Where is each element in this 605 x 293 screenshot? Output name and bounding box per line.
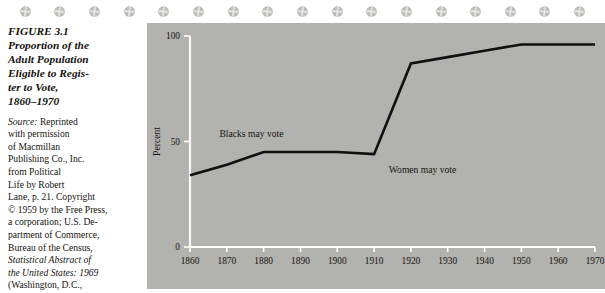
source-line: (Washington, D.C., (8, 279, 82, 290)
source-label: Source: (8, 116, 37, 127)
figure-title-line: Adult Population (8, 53, 89, 65)
source-line: Bureau of the Census, (8, 242, 93, 253)
figure-title-line: Eligible to Regis- (8, 67, 89, 79)
source-line: a corporation; U.S. De- (8, 216, 98, 227)
rosette-ornament (469, 5, 482, 18)
x-tick-label: 1860 (181, 256, 200, 266)
x-tick-label: 1940 (475, 256, 494, 266)
figure-source-note: Source: Reprintedwith permissionof Macmi… (8, 116, 142, 292)
chart-annotation-label: Women may vote (389, 164, 456, 175)
rosette-ornament (227, 5, 240, 18)
x-tick-label: 1880 (254, 256, 273, 266)
rosette-ornament (538, 5, 551, 18)
x-tick-label: 1930 (438, 256, 457, 266)
rosette-ornament (400, 5, 413, 18)
chart-axes (190, 36, 595, 247)
figure-number: FIGURE 3.1 (8, 25, 69, 37)
figure-title-line: ter to Vote, (8, 81, 58, 93)
source-line: the United States: 1969 (8, 267, 98, 278)
chart-panel: 1860187018801890190019101920193019401950… (147, 23, 605, 289)
x-tick-label: 1900 (328, 256, 347, 266)
rosette-ornament (192, 5, 205, 18)
figure-title: FIGURE 3.1Proportion of theAdult Populat… (8, 24, 142, 109)
x-tick-label: 1920 (402, 256, 421, 266)
rosette-ornament (88, 5, 101, 18)
rosette-ornament (19, 5, 32, 18)
chart-annotation-label: Blacks may vote (219, 128, 283, 139)
figure-title-line: 1860–1970 (8, 95, 59, 107)
rosette-ornament (365, 5, 378, 18)
rosette-ornament (331, 5, 344, 18)
x-tick-label: 1870 (217, 256, 236, 266)
rosette-ornament (573, 5, 586, 18)
y-tick-label: 100 (166, 31, 180, 41)
y-axis-ticks: 050100 (166, 31, 190, 252)
x-tick-label: 1910 (365, 256, 384, 266)
source-line: Reprinted (37, 116, 77, 127)
source-line: © 1959 by the Free Press, (8, 204, 107, 215)
x-axis-ticks: 1860187018801890190019101920193019401950… (181, 247, 605, 266)
rosette-ornament (53, 5, 66, 18)
source-line: of Macmillan (8, 141, 60, 152)
rosette-ornament (261, 5, 274, 18)
source-line: with permission (8, 128, 70, 139)
y-tick-label: 0 (175, 242, 180, 252)
x-tick-label: 1970 (586, 256, 605, 266)
source-line: Statistical Abstract of (8, 254, 91, 265)
source-line: Life by Robert (8, 179, 64, 190)
source-line: Publishing Co., Inc. (8, 153, 85, 164)
y-axis-title: Percent (151, 127, 162, 156)
y-tick-label: 50 (171, 137, 181, 147)
source-line: from Political (8, 166, 61, 177)
series-polyline (190, 44, 595, 175)
x-tick-label: 1960 (549, 256, 568, 266)
figure-title-line: Proportion of the (8, 39, 89, 51)
rosette-ornament (123, 5, 136, 18)
x-tick-label: 1950 (512, 256, 531, 266)
rosette-ornament (296, 5, 309, 18)
data-series-line (190, 44, 595, 175)
rosette-ornament (157, 5, 170, 18)
rosette-ornament (435, 5, 448, 18)
axis-lines (190, 36, 595, 247)
chart-plot-area: 1860187018801890190019101920193019401950… (147, 23, 605, 289)
figure-caption-column: FIGURE 3.1Proportion of theAdult Populat… (8, 24, 142, 293)
rosette-ornament (504, 5, 517, 18)
x-tick-label: 1890 (291, 256, 310, 266)
source-line: Lane, p. 21. Copyright (8, 191, 95, 202)
source-line: partment of Commerce, (8, 229, 99, 240)
y-axis-title-text: Percent (151, 127, 162, 156)
line-chart-svg: 1860187018801890190019101920193019401950… (147, 23, 605, 289)
decorative-ornament-strip (0, 0, 605, 22)
